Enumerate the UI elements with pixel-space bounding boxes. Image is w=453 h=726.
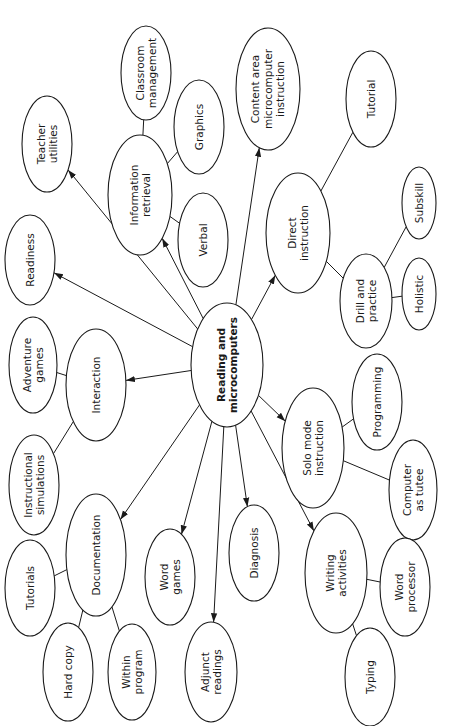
arrow-center-to-content-area (236, 148, 259, 305)
node-label: Graphics (193, 104, 205, 150)
node-label: Tutorials (24, 566, 36, 611)
node-label-line: Programming (371, 367, 383, 438)
node-label: Readiness (24, 233, 36, 286)
node-writing-activities: Writingactivities (305, 513, 367, 633)
node-teacher-utilities: Teacherutilities (22, 96, 72, 192)
node-label: Teacherutilities (35, 123, 60, 165)
node-label-line: Readiness (24, 233, 36, 286)
node-label-line: Instructional (22, 452, 34, 518)
node-label-line: simulations (34, 455, 46, 515)
connector-drill-and-practice-to-subskill (384, 227, 406, 268)
node-adjunct-readings: Adjunctreadings (185, 622, 237, 722)
node-label: Adjunctreadings (199, 649, 224, 694)
node-label-line: Verbal (197, 223, 209, 256)
node-label-line: microcomputer (262, 48, 274, 129)
connector-direct-instruction-to-tutorial (321, 132, 353, 191)
node-label-line: practice (366, 280, 378, 322)
node-classroom-management: Classroommanagement (121, 26, 171, 120)
node-label-line: Information (128, 165, 140, 226)
node-subskill: Subskill (402, 167, 436, 239)
node-label: Solo modeinstruction (301, 420, 326, 476)
node-label: Wordgames (158, 559, 183, 594)
node-label-line: program (132, 650, 144, 695)
node-label-line: instruction (313, 420, 325, 476)
arrow-center-to-diagnosis (236, 425, 248, 507)
node-content-area: Content areamicrocomputerinstruction (236, 28, 300, 150)
node-interaction: Interaction (66, 329, 126, 441)
node-label: Informationretrieval (128, 165, 153, 226)
node-label: Withinprogram (120, 650, 145, 695)
arrow-center-to-readiness (54, 273, 193, 347)
node-label: Reading andmicrocomputers (215, 317, 240, 413)
connector-interaction-to-adventure-games (57, 373, 67, 376)
connector-documentation-to-tutorials (54, 570, 67, 576)
node-direct-instruction: Directinstruction (266, 173, 330, 293)
node-label-line: Word (158, 564, 170, 591)
node-label-line: Content area (249, 55, 261, 124)
concept-map: Reading andmicrocomputersTeacherutilitie… (0, 0, 453, 726)
node-label-line: Teacher (35, 123, 47, 165)
connector-documentation-to-within-program (112, 607, 120, 631)
node-label-line: Typing (364, 660, 376, 695)
node-label-line: Graphics (193, 104, 205, 150)
arrow-center-to-direct-instruction (252, 275, 276, 319)
node-label-line: Reading and (215, 328, 227, 402)
node-label-line: Computer (401, 463, 413, 516)
node-readiness: Readiness (5, 215, 55, 305)
node-graphics: Graphics (174, 80, 224, 174)
node-label-line: instruction (274, 61, 286, 117)
node-label-line: Diagnosis (248, 527, 260, 578)
arrow-center-to-interaction (126, 371, 191, 381)
node-label-line: retrieval (140, 173, 152, 217)
node-adventure-games: Adventuregames (9, 317, 57, 413)
connector-direct-instruction-to-drill-and-practice (326, 261, 343, 278)
connector-writing-activities-to-word-processor (367, 579, 380, 582)
node-computer-as-tutee: Computeras tutee (389, 440, 437, 540)
connector-information-retrieval-to-graphics (167, 152, 177, 164)
node-word-processor: Wordprocessor (380, 538, 430, 636)
node-typing: Typing (345, 628, 395, 726)
node-label-line: Classroom (134, 46, 146, 101)
node-label: Tutorial (365, 80, 377, 120)
connector-drill-and-practice-to-holistic (392, 296, 402, 297)
node-label: Interaction (90, 357, 102, 414)
node-label: Diagnosis (248, 527, 260, 578)
node-label-line: Adventure (21, 338, 33, 392)
node-label-line: Holistic (413, 275, 425, 314)
node-label-line: Word (393, 574, 405, 601)
connector-solo-mode-instruction-to-programming (342, 419, 354, 427)
node-label-line: Solo mode (301, 420, 313, 476)
arrow-center-to-word-games (182, 421, 212, 534)
node-solo-mode-instruction: Solo modeinstruction (282, 388, 344, 508)
connector-documentation-to-hard-copy (79, 610, 83, 628)
node-label: Drill andpractice (354, 279, 379, 323)
node-within-program: Withinprogram (108, 624, 156, 720)
node-label: Writingactivities (324, 549, 349, 596)
node-verbal: Verbal (178, 193, 228, 287)
nodes: Reading andmicrocomputersTeacherutilitie… (5, 26, 437, 726)
node-label-line: Direct (286, 217, 298, 248)
node-tutorial: Tutorial (346, 51, 396, 147)
node-information-retrieval: Informationretrieval (108, 135, 172, 255)
node-label-line: Subskill (413, 183, 425, 223)
node-label-line: Drill and (354, 279, 366, 323)
node-label-line: Within (120, 655, 132, 688)
node-label: Holistic (413, 275, 425, 314)
node-label-line: readings (211, 649, 223, 694)
node-label-line: as tutee (413, 468, 425, 511)
node-label: Instructionalsimulations (22, 452, 47, 518)
node-label-line: Tutorials (24, 566, 36, 611)
node-instructional-simulations: Instructionalsimulations (9, 435, 59, 535)
node-tutorials: Tutorials (5, 540, 55, 636)
node-label: Hard copy (62, 645, 74, 699)
node-label-line: Documentation (90, 515, 102, 596)
node-label-line: management (146, 38, 158, 108)
node-label: Classroommanagement (134, 38, 159, 108)
node-label-line: games (170, 559, 182, 594)
node-label-line: processor (405, 561, 417, 613)
node-label-line: microcomputers (227, 317, 239, 413)
connector-interaction-to-instructional-simulations (54, 422, 74, 454)
node-label-line: Tutorial (365, 80, 377, 120)
node-programming: Programming (352, 354, 402, 450)
node-label-line: Hard copy (62, 645, 74, 699)
